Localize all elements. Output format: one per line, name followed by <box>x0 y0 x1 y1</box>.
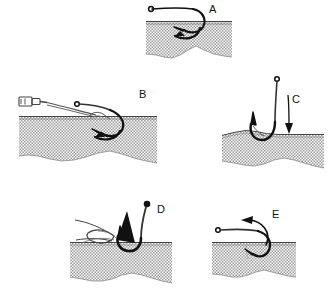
hook-shank-c <box>275 81 277 122</box>
panel-label-e: E <box>272 209 280 220</box>
panel-c <box>222 77 324 168</box>
needle-hub-d <box>87 230 114 243</box>
panel-e <box>212 216 296 277</box>
needle-body-d <box>75 220 114 236</box>
tissue-e <box>212 243 296 277</box>
hook-eye-a <box>149 7 154 12</box>
clamp-b <box>19 97 47 106</box>
fishhook-removal-figure: A B C D E <box>0 0 336 289</box>
hook-shank-e <box>220 229 258 231</box>
panel-b <box>19 97 157 163</box>
hook-eye-d <box>144 201 149 206</box>
hook-shank-b <box>79 104 110 110</box>
panel-label-b: B <box>139 89 147 100</box>
panel-a <box>146 7 232 58</box>
hook-shank-a <box>152 8 193 9</box>
figure-canvas <box>0 0 336 289</box>
arrow-e-head <box>241 216 253 224</box>
clamp-arm-b2 <box>47 105 96 117</box>
arrow-c-head <box>285 123 293 134</box>
arrow-c-shaft <box>288 95 289 126</box>
hook-shank-d <box>141 207 146 238</box>
tissue-a <box>146 22 232 58</box>
panel-label-a: A <box>209 4 217 15</box>
hook-point-c <box>251 112 256 125</box>
panel-label-d: D <box>157 204 165 215</box>
panel-label-c: C <box>292 94 300 105</box>
